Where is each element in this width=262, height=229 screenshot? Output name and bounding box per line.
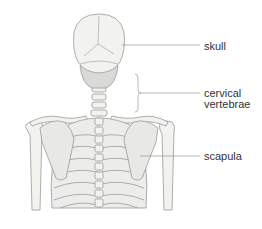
label-scapula: scapula <box>204 151 242 162</box>
skeleton-illustration <box>0 0 262 229</box>
label-skull: skull <box>204 41 226 52</box>
label-cervical-line2: vertebrae <box>204 99 250 110</box>
right-humerus <box>159 121 174 210</box>
cervical-bracket <box>135 74 141 112</box>
skull <box>74 14 125 73</box>
label-cervical-vertebrae: cervical vertebrae <box>204 88 250 110</box>
left-humerus <box>26 121 43 210</box>
